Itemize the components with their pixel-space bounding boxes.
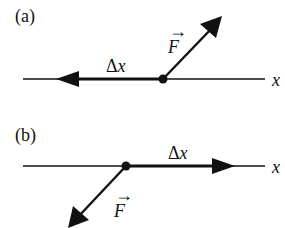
panel-a-particle-dot	[159, 75, 168, 84]
panel-a-axis-label: x	[271, 70, 280, 90]
panel-b: (b) x Δx F →	[15, 125, 280, 228]
panel-a-force-vector-arrow: →	[169, 21, 187, 41]
delta-symbol: Δ	[168, 143, 180, 163]
x-symbol: x	[179, 143, 188, 163]
panel-b-force-vector-arrow: →	[115, 185, 133, 205]
panel-b-displacement-label: Δx	[168, 143, 188, 163]
panel-a-displacement-label: Δx	[106, 56, 126, 76]
panel-b-particle-dot	[122, 162, 131, 171]
panel-b-axis-label: x	[271, 157, 280, 177]
x-symbol: x	[117, 56, 126, 76]
panel-a-displacement-arrowhead	[56, 71, 79, 87]
panel-a-force-arrowhead	[200, 16, 222, 38]
work-force-displacement-diagram: (a) x Δx F → (b) x Δx F →	[0, 0, 285, 228]
panel-a: (a) x Δx F →	[15, 6, 280, 90]
panel-b-label: (b)	[15, 125, 36, 146]
panel-a-label: (a)	[15, 6, 35, 27]
panel-b-displacement-arrowhead	[212, 158, 235, 174]
delta-symbol: Δ	[106, 56, 118, 76]
